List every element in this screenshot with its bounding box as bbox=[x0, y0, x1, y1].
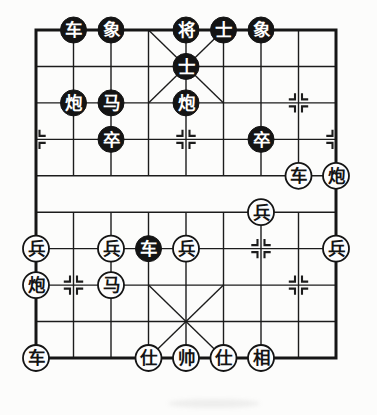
piece-red-chariot[interactable]: 车 bbox=[286, 163, 312, 189]
piece-red-cannon[interactable]: 炮 bbox=[323, 163, 349, 189]
piece-label: 卒 bbox=[103, 130, 120, 150]
piece-red-soldier[interactable]: 兵 bbox=[173, 236, 199, 262]
piece-label: 车 bbox=[28, 348, 45, 368]
piece-black-advisor[interactable]: 士 bbox=[211, 17, 237, 43]
piece-label: 炮 bbox=[28, 275, 46, 295]
piece-red-soldier[interactable]: 兵 bbox=[248, 199, 274, 225]
piece-black-soldier[interactable]: 卒 bbox=[248, 126, 274, 152]
piece-black-cannon[interactable]: 炮 bbox=[173, 90, 199, 116]
piece-black-horse[interactable]: 马 bbox=[98, 90, 124, 116]
xiangqi-board: 车象将士象士炮马炮卒卒车车炮兵兵兵兵兵炮马车仕帅仕相 bbox=[0, 0, 377, 415]
piece-label: 象 bbox=[103, 20, 121, 40]
piece-label: 炮 bbox=[65, 93, 83, 113]
piece-label: 兵 bbox=[328, 239, 346, 259]
piece-black-chariot[interactable]: 车 bbox=[136, 236, 162, 262]
xiangqi-diagram-page: 车象将士象士炮马炮卒卒车车炮兵兵兵兵兵炮马车仕帅仕相 bbox=[0, 0, 377, 415]
piece-label: 马 bbox=[103, 275, 120, 295]
piece-label: 将 bbox=[178, 20, 195, 40]
piece-label: 兵 bbox=[28, 239, 46, 259]
piece-label: 炮 bbox=[178, 93, 196, 113]
piece-label: 士 bbox=[215, 20, 232, 40]
piece-label: 帅 bbox=[178, 348, 195, 368]
piece-label: 车 bbox=[290, 166, 307, 186]
piece-label: 马 bbox=[103, 93, 120, 113]
piece-black-general[interactable]: 将 bbox=[173, 17, 199, 43]
piece-label: 仕 bbox=[139, 348, 158, 368]
piece-red-advisor[interactable]: 仕 bbox=[211, 345, 237, 371]
scan-artifact bbox=[168, 399, 260, 408]
piece-label: 象 bbox=[253, 20, 271, 40]
piece-black-elephant[interactable]: 象 bbox=[248, 17, 274, 43]
piece-label: 卒 bbox=[253, 130, 270, 150]
piece-black-advisor[interactable]: 士 bbox=[173, 53, 199, 79]
piece-label: 车 bbox=[140, 239, 157, 259]
piece-red-advisor[interactable]: 仕 bbox=[136, 345, 162, 371]
piece-label: 炮 bbox=[328, 166, 346, 186]
piece-red-elephant[interactable]: 相 bbox=[248, 345, 274, 371]
piece-label: 兵 bbox=[178, 239, 196, 259]
piece-red-soldier[interactable]: 兵 bbox=[23, 236, 49, 262]
piece-label: 士 bbox=[178, 57, 195, 77]
piece-black-chariot[interactable]: 车 bbox=[61, 17, 87, 43]
piece-label: 仕 bbox=[214, 348, 233, 368]
piece-label: 车 bbox=[65, 20, 82, 40]
piece-red-cannon[interactable]: 炮 bbox=[23, 272, 49, 298]
piece-label: 相 bbox=[253, 348, 270, 368]
piece-label: 兵 bbox=[253, 203, 271, 223]
piece-label: 兵 bbox=[103, 239, 121, 259]
piece-black-elephant[interactable]: 象 bbox=[98, 17, 124, 43]
piece-red-general[interactable]: 帅 bbox=[173, 345, 199, 371]
piece-black-soldier[interactable]: 卒 bbox=[98, 126, 124, 152]
piece-black-cannon[interactable]: 炮 bbox=[61, 90, 87, 116]
piece-red-soldier[interactable]: 兵 bbox=[98, 236, 124, 262]
piece-red-horse[interactable]: 马 bbox=[98, 272, 124, 298]
piece-red-chariot[interactable]: 车 bbox=[23, 345, 49, 371]
piece-red-soldier[interactable]: 兵 bbox=[323, 236, 349, 262]
